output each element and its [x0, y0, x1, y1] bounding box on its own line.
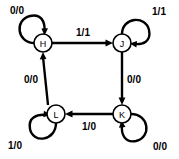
edge-H-to-J-arrowhead	[106, 40, 114, 47]
node-L[interactable]: L	[47, 105, 65, 123]
edge-L-to-H-line	[43, 57, 48, 105]
edge-K-to-L-arrowhead	[65, 111, 73, 118]
state-diagram-container: H J L K 1/1 0/0 1/0 0/0 0/0 1/1 1/0 0/0	[0, 0, 179, 159]
node-L-label: L	[53, 110, 58, 120]
edge-L-to-H-arrowhead	[40, 52, 47, 60]
edge-label-J-to-K: 0/0	[127, 74, 141, 85]
node-K[interactable]: K	[113, 105, 131, 123]
edge-L-to-H	[40, 52, 48, 105]
self-loop-label-K: 0/0	[153, 141, 167, 152]
state-diagram-canvas: H J L K 1/1 0/0 1/0 0/0 0/0 1/1 1/0 0/0	[0, 0, 179, 159]
node-K-label: K	[119, 110, 125, 120]
edge-H-to-J	[52, 40, 113, 47]
edge-label-L-to-H: 0/0	[24, 74, 38, 85]
edge-K-to-L	[65, 111, 113, 118]
node-J[interactable]: J	[113, 34, 131, 52]
self-loop-label-L: 1/0	[8, 140, 22, 151]
node-J-label: J	[120, 39, 125, 49]
node-H-label: H	[40, 39, 47, 49]
edge-label-H-to-J: 1/1	[76, 27, 90, 38]
self-loop-label-J: 1/1	[152, 6, 166, 17]
edge-J-to-K	[119, 52, 126, 105]
self-loop-label-H: 0/0	[10, 5, 24, 16]
edge-label-K-to-L: 1/0	[82, 121, 96, 132]
edge-J-to-K-arrowhead	[119, 98, 126, 106]
node-H[interactable]: H	[34, 34, 52, 52]
